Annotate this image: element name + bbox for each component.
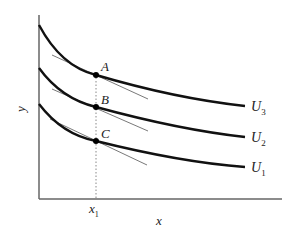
- curve-label-u1: U1: [251, 160, 266, 178]
- point-label-a: A: [100, 59, 109, 74]
- curve-u3: [39, 25, 245, 106]
- diagram-canvas: A B C U3 U2 U1 y x x1: [0, 0, 289, 241]
- curve-label-u3: U3: [251, 99, 266, 117]
- x-axis-label: x: [155, 213, 162, 228]
- y-axis-label: y: [13, 106, 28, 114]
- indifference-curve-diagram: A B C U3 U2 U1 y x x1: [0, 0, 289, 241]
- point-label-b: B: [101, 92, 109, 107]
- point-b: [93, 104, 99, 110]
- curve-label-u2: U2: [251, 130, 266, 148]
- point-c: [93, 138, 99, 144]
- curve-u1: [39, 104, 245, 167]
- point-label-c: C: [101, 126, 110, 141]
- x1-tick-label: x1: [88, 201, 99, 219]
- point-a: [93, 72, 99, 78]
